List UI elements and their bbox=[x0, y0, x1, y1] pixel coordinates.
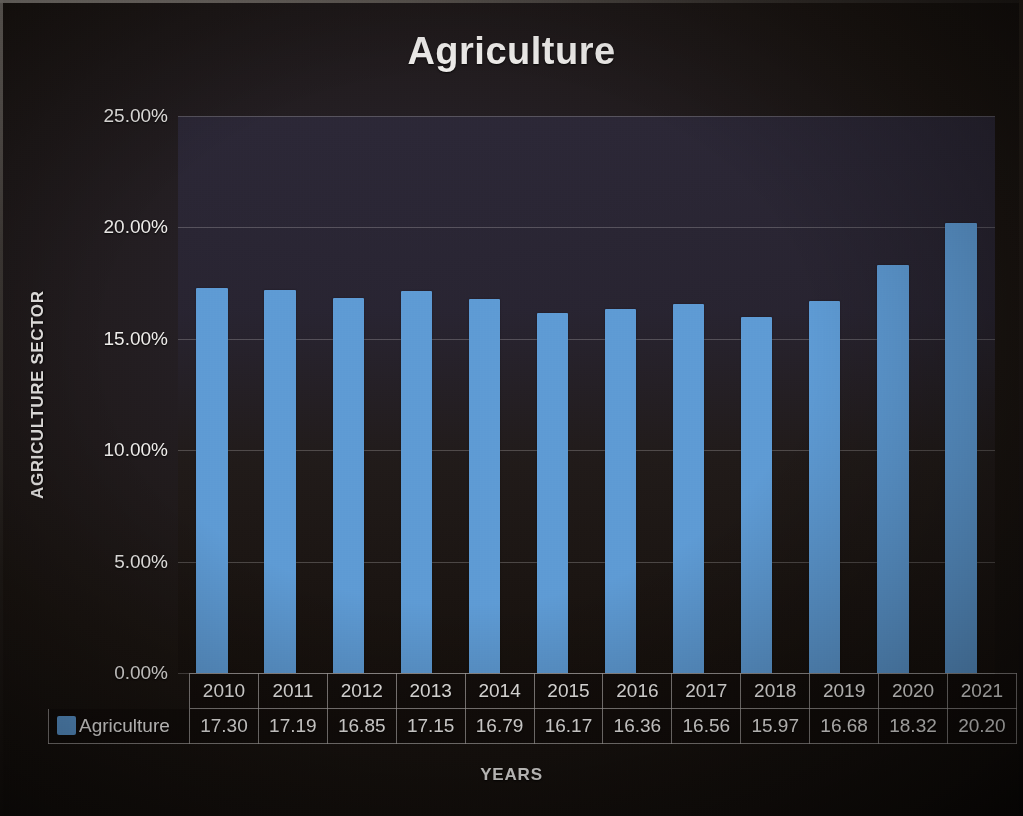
bar-2011 bbox=[264, 290, 295, 673]
bar-2015 bbox=[537, 313, 568, 673]
legend-entry-agriculture: Agriculture bbox=[49, 709, 190, 744]
table-cell-value: 16.79 bbox=[465, 709, 534, 744]
table-cell-value: 20.20 bbox=[947, 709, 1016, 744]
years-row-spacer bbox=[49, 674, 190, 709]
table-cell-year: 2012 bbox=[327, 674, 396, 709]
table-cell-year: 2017 bbox=[672, 674, 741, 709]
table-cell-year: 2013 bbox=[396, 674, 465, 709]
bar-2019 bbox=[809, 301, 840, 673]
legend-label: Agriculture bbox=[79, 715, 170, 736]
table-cell-value: 16.68 bbox=[810, 709, 879, 744]
legend-swatch-icon bbox=[57, 716, 76, 735]
y-tick-label: 15.00% bbox=[8, 328, 168, 350]
gridline bbox=[178, 227, 995, 228]
y-tick-label: 10.00% bbox=[8, 439, 168, 461]
table-cell-year: 2015 bbox=[534, 674, 603, 709]
bar-2017 bbox=[673, 304, 704, 673]
table-cell-value: 15.97 bbox=[741, 709, 810, 744]
table-cell-value: 18.32 bbox=[879, 709, 948, 744]
table-cell-value: 16.36 bbox=[603, 709, 672, 744]
table-cell-year: 2011 bbox=[258, 674, 327, 709]
table-cell-year: 2010 bbox=[190, 674, 259, 709]
bar-2016 bbox=[605, 309, 636, 674]
gridline bbox=[178, 116, 995, 117]
gridline bbox=[178, 562, 995, 563]
bar-2021 bbox=[945, 223, 976, 673]
gridline bbox=[178, 450, 995, 451]
bar-2018 bbox=[741, 317, 772, 673]
chart-slide: Agriculture AGRICULTURE SECTOR 0.00%5.00… bbox=[0, 0, 1023, 816]
table-cell-value: 16.56 bbox=[672, 709, 741, 744]
plot-area bbox=[178, 116, 995, 673]
bar-2020 bbox=[877, 265, 908, 673]
bar-2010 bbox=[196, 288, 227, 673]
y-tick-label: 5.00% bbox=[8, 551, 168, 573]
table-cell-value: 16.17 bbox=[534, 709, 603, 744]
table-cell-year: 2021 bbox=[947, 674, 1016, 709]
table-row-years: 2010201120122013201420152016201720182019… bbox=[49, 674, 1017, 709]
table-cell-value: 17.15 bbox=[396, 709, 465, 744]
table-row-values: Agriculture 17.3017.1916.8517.1516.7916.… bbox=[49, 709, 1017, 744]
chart-title: Agriculture bbox=[0, 30, 1023, 73]
table-cell-value: 17.19 bbox=[258, 709, 327, 744]
gridline bbox=[178, 339, 995, 340]
y-tick-label: 25.00% bbox=[8, 105, 168, 127]
x-axis-title: YEARS bbox=[0, 765, 1023, 785]
bar-2014 bbox=[469, 299, 500, 673]
slide-right-edge bbox=[1019, 0, 1023, 816]
table-cell-year: 2016 bbox=[603, 674, 672, 709]
table-cell-year: 2020 bbox=[879, 674, 948, 709]
slide-top-edge bbox=[0, 0, 1023, 3]
table-cell-value: 17.30 bbox=[190, 709, 259, 744]
table-cell-year: 2018 bbox=[741, 674, 810, 709]
bar-2013 bbox=[401, 291, 432, 673]
table-cell-value: 16.85 bbox=[327, 709, 396, 744]
table-cell-year: 2019 bbox=[810, 674, 879, 709]
y-tick-label: 20.00% bbox=[8, 216, 168, 238]
bar-2012 bbox=[333, 298, 364, 673]
chart-data-table: 2010201120122013201420152016201720182019… bbox=[48, 673, 1017, 744]
table-cell-year: 2014 bbox=[465, 674, 534, 709]
y-axis-tick-labels: 0.00%5.00%10.00%15.00%20.00%25.00% bbox=[0, 116, 168, 673]
